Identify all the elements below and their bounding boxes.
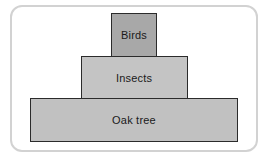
pyramid-level-insects: Insects xyxy=(81,56,188,100)
pyramid-level-oak-tree-label: Oak tree xyxy=(112,114,156,126)
diagram-frame: Birds Insects Oak tree xyxy=(10,5,258,152)
pyramid-level-oak-tree: Oak tree xyxy=(30,98,238,142)
screenshot-canvas: Birds Insects Oak tree xyxy=(0,0,270,164)
pyramid-level-insects-label: Insects xyxy=(116,72,152,84)
pyramid-level-birds: Birds xyxy=(111,13,157,57)
pyramid-level-birds-label: Birds xyxy=(121,29,147,41)
